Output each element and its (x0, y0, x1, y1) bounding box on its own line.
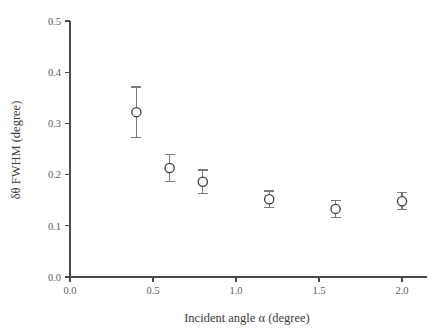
axes (70, 21, 427, 277)
y-axis-title: δθ FWHM (degree) (9, 101, 23, 200)
y-tick-label: 0.3 (48, 118, 61, 129)
x-tick-label: 0.5 (146, 285, 159, 296)
scatter-plot-canvas: 0.00.10.20.30.40.50.00.51.01.52.0 Incide… (0, 0, 442, 332)
y-tick-label: 0.4 (48, 67, 62, 78)
x-tick-label: 1.0 (229, 285, 242, 296)
data-point (264, 191, 274, 207)
y-tick-label: 0.0 (48, 272, 61, 283)
x-axis-title: Incident angle α (degree) (184, 311, 310, 325)
data-point (165, 155, 175, 182)
marker-open-circle (132, 108, 141, 117)
marker-open-circle (265, 195, 274, 204)
tick-labels: 0.00.10.20.30.40.50.00.51.01.52.0 (48, 16, 409, 296)
x-tick-label: 0.0 (63, 285, 76, 296)
y-tick-label: 0.2 (48, 169, 61, 180)
data-point (331, 200, 341, 217)
y-tick-label: 0.1 (48, 221, 61, 232)
tick-marks (65, 21, 402, 282)
chart-figure: 0.00.10.20.30.40.50.00.51.01.52.0 Incide… (0, 0, 442, 332)
data-point (131, 87, 141, 137)
x-tick-label: 2.0 (395, 285, 408, 296)
data-point (198, 170, 208, 194)
marker-open-circle (397, 197, 406, 206)
y-tick-label: 0.5 (48, 16, 61, 27)
marker-open-circle (331, 204, 340, 213)
x-tick-label: 1.5 (312, 285, 325, 296)
data-point (397, 193, 407, 210)
data-points (131, 87, 407, 218)
marker-open-circle (198, 177, 207, 186)
marker-open-circle (165, 163, 174, 172)
